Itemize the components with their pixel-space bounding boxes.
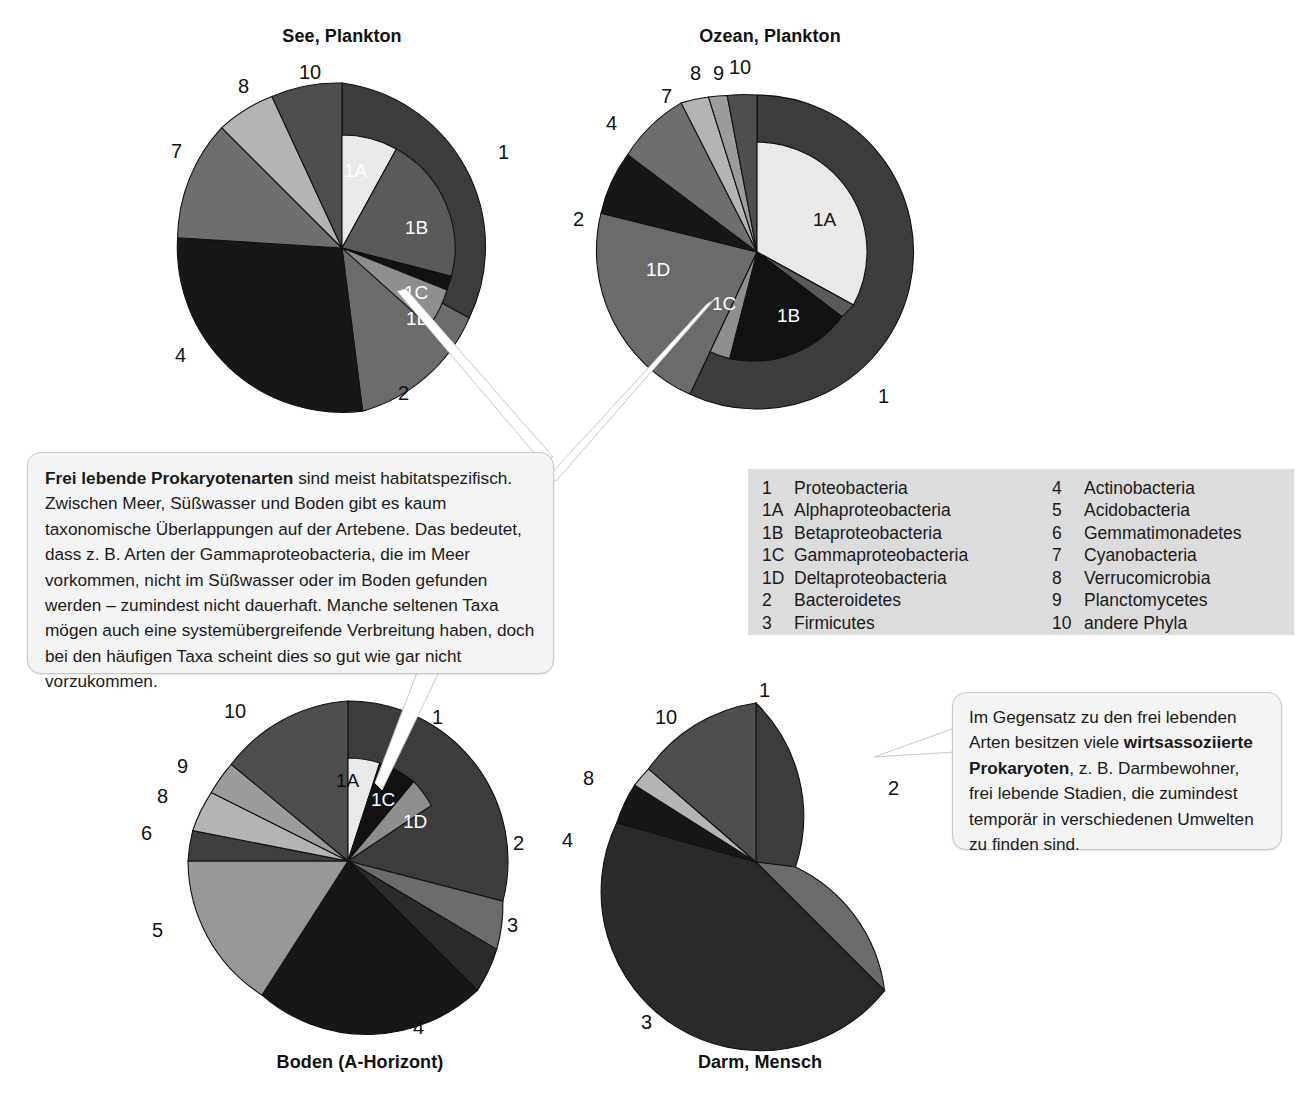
boden-label-6: 6 (141, 823, 152, 843)
chart-title-boden: Boden (A-Horizont) (250, 1052, 470, 1073)
pie-chart-darm (594, 700, 924, 1030)
legend-name: Betaproteobacteria (794, 523, 942, 544)
see-label-2: 2 (398, 383, 409, 403)
see-label-1C: 1C (404, 283, 428, 302)
darm-label-4: 4 (562, 830, 573, 850)
boden-label-10: 10 (224, 701, 246, 721)
legend-item: 6 Gemmatimonadetes (1052, 523, 1292, 545)
legend-column-right: 4 Actinobacteria 5 Acidobacteria 6 Gemma… (1052, 478, 1292, 635)
ozean-label-8: 8 (690, 63, 701, 83)
chart-title-darm: Darm, Mensch (660, 1052, 860, 1073)
legend-item: 1 Proteobacteria (762, 478, 1052, 500)
boden-label-2: 2 (513, 833, 524, 853)
legend-item: 7 Cyanobacteria (1052, 545, 1292, 567)
chart-title-ozean: Ozean, Plankton (660, 26, 880, 47)
callout-left-body: sind meist habitatspezifisch. Zwischen M… (45, 468, 534, 691)
boden-label-3: 3 (507, 915, 518, 935)
ozean-label-1D: 1D (646, 260, 670, 279)
callout-free-living: Frei lebende Prokaryotenarten sind meist… (27, 452, 554, 674)
legend-key: 10 (1052, 613, 1084, 634)
legend-key: 1 (762, 478, 794, 499)
legend-key: 9 (1052, 590, 1084, 611)
legend-name: Deltaproteobacteria (794, 568, 947, 589)
legend-name: Bacteroidetes (794, 590, 901, 611)
ozean-label-1C: 1C (712, 294, 736, 313)
legend-item: 1D Deltaproteobacteria (762, 568, 1052, 590)
legend-item: 1B Betaproteobacteria (762, 523, 1052, 545)
see-label-1A: 1A (344, 161, 367, 180)
boden-label-9: 9 (177, 756, 188, 776)
legend-name: Alphaproteobacteria (794, 500, 951, 521)
pie-chart-boden (185, 698, 525, 1038)
legend-item: 2 Bacteroidetes (762, 590, 1052, 612)
legend-column-left: 1 Proteobacteria 1A Alphaproteobacteria … (762, 478, 1052, 635)
ozean-label-10: 10 (729, 57, 751, 77)
ozean-label-1: 1 (878, 386, 889, 406)
legend-name: Gemmatimonadetes (1084, 523, 1242, 544)
legend-item: 10 andere Phyla (1052, 613, 1292, 635)
ozean-label-4: 4 (606, 113, 617, 133)
legend-item: 3 Firmicutes (762, 613, 1052, 635)
legend-name: Proteobacteria (794, 478, 908, 499)
ozean-label-2: 2 (573, 209, 584, 229)
figure-canvas: See, Plankton 1 2 4 (0, 0, 1302, 1100)
legend-name: Cyanobacteria (1084, 545, 1197, 566)
callout-host-associated: Im Gegensatz zu den frei lebenden Arten … (952, 692, 1282, 850)
legend-item: 1C Gammaproteobacteria (762, 545, 1052, 567)
boden-label-1: 1 (432, 707, 443, 727)
darm-label-1: 1 (759, 680, 770, 700)
ozean-label-7: 7 (661, 86, 672, 106)
legend-name: Acidobacteria (1084, 500, 1190, 521)
legend-key: 8 (1052, 568, 1084, 589)
slice-darm-1 (756, 703, 804, 867)
pie-chart-ozean-plankton (597, 92, 927, 422)
legend-name: Gammaproteobacteria (794, 545, 968, 566)
pie-svg-see (172, 78, 517, 423)
see-label-1: 1 (498, 142, 509, 162)
see-label-8: 8 (238, 76, 249, 96)
legend-key: 7 (1052, 545, 1084, 566)
boden-label-1A: 1A (336, 771, 359, 790)
callout-left-lead: Frei lebende Prokaryotenarten (45, 468, 293, 488)
legend-key: 1B (762, 523, 794, 544)
darm-label-10: 10 (655, 707, 677, 727)
pie-svg-boden (185, 698, 525, 1038)
boden-label-8: 8 (157, 786, 168, 806)
legend-key: 1A (762, 500, 794, 521)
legend-key: 3 (762, 613, 794, 634)
boden-label-1C: 1C (371, 790, 395, 809)
legend-name: Actinobacteria (1084, 478, 1195, 499)
legend-name: Verrucomicrobia (1084, 568, 1210, 589)
legend-key: 5 (1052, 500, 1084, 521)
boden-label-4: 4 (413, 1017, 424, 1037)
pie-svg-ozean (597, 92, 927, 422)
legend-name: Firmicutes (794, 613, 875, 634)
ozean-label-9: 9 (713, 63, 724, 83)
slice-see-4 (177, 238, 362, 413)
ozean-label-1A: 1A (813, 210, 836, 229)
ozean-label-1B: 1B (777, 306, 800, 325)
see-label-1B: 1B (405, 218, 428, 237)
legend-item: 8 Verrucomicrobia (1052, 568, 1292, 590)
darm-label-8: 8 (583, 768, 594, 788)
boden-label-1D: 1D (403, 812, 427, 831)
chart-title-see: See, Plankton (242, 26, 442, 47)
legend-item: 5 Acidobacteria (1052, 500, 1292, 522)
legend-key: 1D (762, 568, 794, 589)
pie-svg-darm (594, 700, 924, 1030)
see-label-10: 10 (299, 62, 321, 82)
legend-name: Planctomycetes (1084, 590, 1208, 611)
legend-key: 6 (1052, 523, 1084, 544)
callout-right-text: Im Gegensatz zu den frei lebenden Arten … (969, 705, 1265, 857)
callout-left-text: Frei lebende Prokaryotenarten sind meist… (45, 466, 536, 695)
see-label-1D: 1D (406, 309, 430, 328)
darm-label-3: 3 (641, 1012, 652, 1032)
legend-name: andere Phyla (1084, 613, 1187, 634)
legend-key: 4 (1052, 478, 1084, 499)
legend-key: 2 (762, 590, 794, 611)
boden-label-5: 5 (152, 920, 163, 940)
taxa-legend: 1 Proteobacteria 1A Alphaproteobacteria … (748, 469, 1294, 635)
see-label-4: 4 (175, 345, 186, 365)
darm-label-2: 2 (888, 778, 899, 798)
legend-item: 9 Planctomycetes (1052, 590, 1292, 612)
